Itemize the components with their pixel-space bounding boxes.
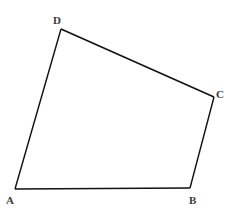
vertex-label-d: D — [53, 14, 61, 26]
vertex-label-c: C — [216, 88, 224, 100]
quadrilateral-diagram: A B C D — [0, 0, 235, 216]
vertex-label-b: B — [189, 194, 197, 206]
edge-da — [15, 29, 61, 189]
edge-ab — [15, 188, 190, 189]
edge-cd — [61, 29, 214, 97]
edge-bc — [190, 97, 214, 188]
vertex-label-a: A — [6, 194, 14, 206]
